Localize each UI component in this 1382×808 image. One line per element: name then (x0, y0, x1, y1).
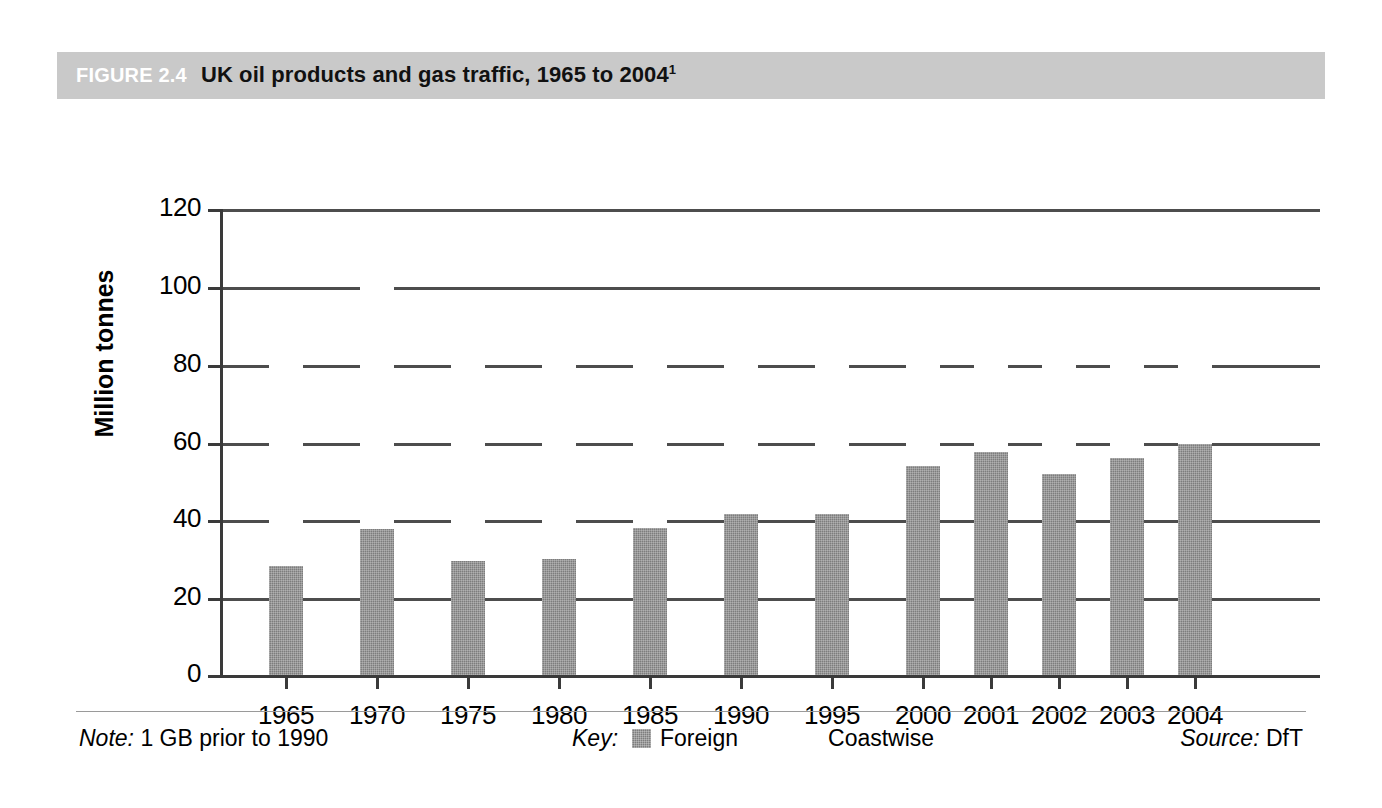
x-tick-mark-1995 (831, 675, 834, 689)
figure-header-band: FIGURE 2.4 UK oil products and gas traff… (57, 52, 1325, 99)
figure-title-footnote-marker: 1 (669, 62, 676, 77)
x-tick-mark-2003 (1126, 675, 1129, 689)
figure-number-label: FIGURE 2.4 (76, 64, 187, 87)
x-tick-mark-1980 (558, 675, 561, 689)
legend-swatch-coastwise (800, 729, 819, 748)
legend-label: Key: (572, 725, 618, 752)
x-tick-mark-1965 (285, 675, 288, 689)
source-label: Source: (1180, 725, 1259, 751)
note-text: 1 GB prior to 1990 (140, 725, 328, 751)
x-axis-layer: 1965 1970 1975 1980 1985 1990 1995 2000 … (57, 99, 1325, 709)
chart-plot-area: Million tonnes (57, 99, 1325, 709)
footer-divider (76, 711, 1306, 712)
page-title: UK oil products and gas traffic, 1965 to… (201, 62, 676, 88)
figure-title-text: UK oil products and gas traffic, 1965 to… (201, 63, 669, 88)
x-tick-mark-1970 (376, 675, 379, 689)
note-block: Note: 1 GB prior to 1990 (79, 725, 328, 752)
x-tick-mark-2002 (1058, 675, 1061, 689)
legend: Key: Foreign Coastwise (572, 725, 934, 752)
x-tick-mark-1985 (649, 675, 652, 689)
legend-item-coastwise[interactable]: Coastwise (828, 725, 934, 752)
legend-item-foreign[interactable]: Foreign (660, 725, 738, 752)
x-tick-mark-1975 (467, 675, 470, 689)
note-label: Note: (79, 725, 134, 751)
legend-swatch-foreign (632, 729, 651, 748)
figure-container: FIGURE 2.4 UK oil products and gas traff… (57, 52, 1325, 764)
figure-footer: Note: 1 GB prior to 1990 Key: Foreign Co… (57, 713, 1325, 764)
source-block: Source: DfT (1180, 725, 1303, 752)
x-tick-mark-2001 (990, 675, 993, 689)
x-tick-mark-2000 (922, 675, 925, 689)
x-tick-mark-1990 (740, 675, 743, 689)
x-tick-mark-2004 (1194, 675, 1197, 689)
source-text: DfT (1266, 725, 1303, 751)
